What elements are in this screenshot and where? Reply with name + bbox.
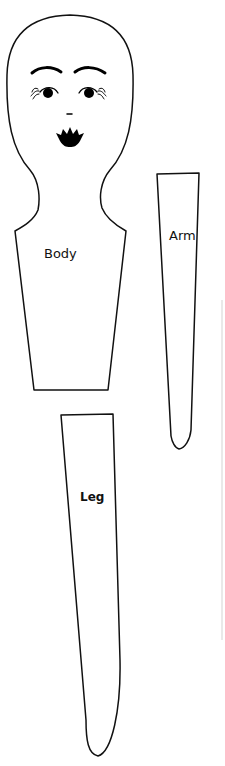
scan-artifact — [221, 300, 223, 640]
leg-piece: Leg — [61, 414, 120, 756]
leg-label: Leg — [80, 490, 104, 504]
body-piece: Body — [7, 15, 133, 390]
arm-label: Arm — [169, 228, 196, 243]
leg-outline — [61, 414, 120, 756]
body-label: Body — [44, 246, 77, 261]
arm-piece: Arm — [157, 173, 199, 449]
body-outline — [7, 15, 133, 390]
doll-sewing-pattern: Body Arm Leg — [0, 0, 225, 766]
arm-outline — [157, 173, 199, 449]
